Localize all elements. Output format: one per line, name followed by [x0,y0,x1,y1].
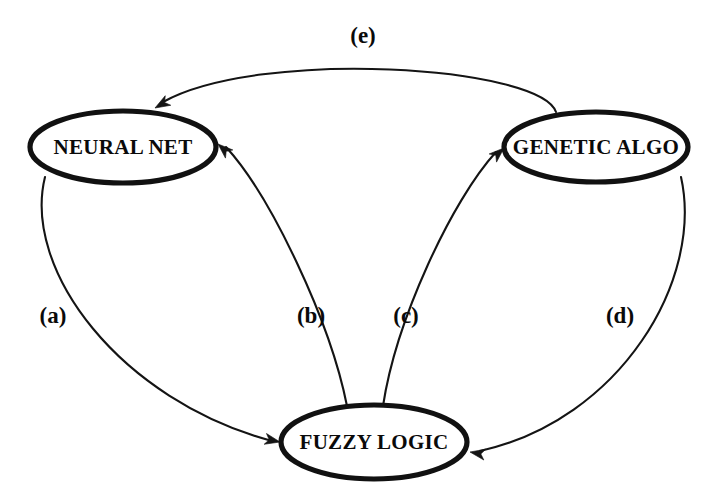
edge-b[interactable] [214,140,347,406]
edge-label-e: (e) [350,23,376,48]
edge-e[interactable] [152,69,556,113]
edge-c[interactable] [383,144,508,406]
edge-c-path [383,152,496,406]
fuzzy-logic-label: FUZZY LOGIC [300,430,449,454]
edge-b-path [226,147,347,406]
edge-label-d: (d) [606,303,634,328]
edge-a-path [42,177,272,441]
edge-label-b: (b) [297,303,325,328]
relationship-diagram: NEURAL NET GENETIC ALGO FUZZY LOGIC (a) … [0,0,714,497]
edge-d-path [480,177,685,451]
edge-label-a: (a) [40,303,67,328]
edge-label-c: (c) [393,303,419,328]
node-fuzzy-logic[interactable]: FUZZY LOGIC [281,405,467,479]
edge-e-path [163,69,556,112]
neural-net-label: NEURAL NET [54,135,193,159]
genetic-algo-label: GENETIC ALGO [513,135,679,159]
edge-d-arrowhead [469,447,486,460]
node-neural-net[interactable]: NEURAL NET [30,111,216,183]
edge-d[interactable] [469,177,685,460]
edge-a[interactable] [42,177,281,447]
node-genetic-algo[interactable]: GENETIC ALGO [504,112,688,182]
diagram-canvas: NEURAL NET GENETIC ALGO FUZZY LOGIC (a) … [0,0,714,497]
node-group: NEURAL NET GENETIC ALGO FUZZY LOGIC [30,111,688,479]
